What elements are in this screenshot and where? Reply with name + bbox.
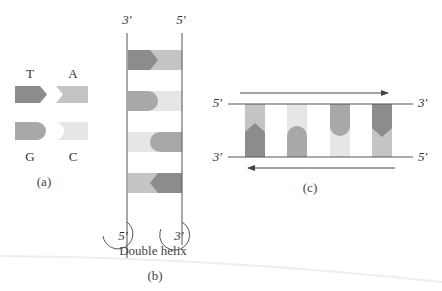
base-g-shape — [15, 122, 46, 140]
double-helix-label: Double helix — [119, 243, 187, 258]
panel-b: 3′ 5′ 5′ 3′ Double helix (b) — [103, 12, 190, 283]
label-a: A — [68, 66, 78, 81]
label-t: T — [26, 66, 34, 81]
label-c: C — [69, 149, 78, 164]
col-3-top-base — [330, 104, 350, 136]
strand-left-bottom-label: 5′ — [118, 228, 128, 243]
base-a-shape — [56, 86, 88, 103]
base-t-shape — [15, 86, 47, 103]
page-fold — [0, 256, 442, 282]
strand-right-top-label: 5′ — [176, 12, 186, 27]
top-strand-right-label: 3′ — [417, 95, 428, 110]
bottom-strand-right-label: 5′ — [418, 149, 428, 164]
panel-a: T A G C (a) — [15, 66, 88, 189]
panel-c: 5′ 3′ 3′ 5′ (c) — [212, 93, 428, 195]
top-strand-left-label: 5′ — [213, 95, 223, 110]
bottom-strand-left-label: 3′ — [212, 149, 223, 164]
pair-3-right-base — [150, 132, 182, 152]
strand-right-bottom-label: 3′ — [173, 228, 184, 243]
caption-a: (a) — [37, 174, 51, 189]
dna-diagram: T A G C (a) 3′ 5′ 5′ 3′ Double helix (b) — [0, 0, 442, 291]
caption-b: (b) — [147, 268, 162, 283]
label-g: G — [25, 149, 34, 164]
caption-c: (c) — [303, 180, 317, 195]
pair-2-left-base — [128, 91, 158, 111]
strand-left-top-label: 3′ — [121, 12, 132, 27]
base-c-shape — [55, 122, 88, 140]
col-2-bottom-base — [287, 126, 307, 157]
